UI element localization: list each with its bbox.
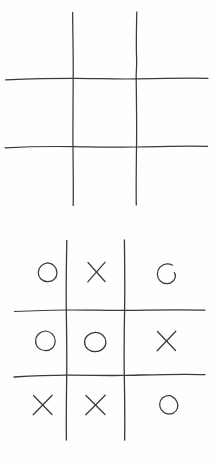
board-bottom-cell-0-0[interactable] [14, 240, 66, 310]
board-top-cell-0-1[interactable] [73, 12, 136, 78]
board-bottom-cell-0-1[interactable] [66, 240, 124, 310]
board-bottom-cell-2-0[interactable] [14, 375, 66, 440]
board-top-cell-0-0[interactable] [5, 12, 73, 78]
board-bottom-cell-2-1[interactable] [66, 375, 124, 440]
board-top-cell-1-2[interactable] [136, 78, 208, 147]
board-bottom-cell-1-1[interactable] [66, 310, 124, 375]
board-top-cell-1-1[interactable] [73, 78, 136, 147]
board-top-cell-2-2[interactable] [136, 147, 208, 205]
board-bottom-cell-1-0[interactable] [14, 310, 66, 375]
empty-tic-tac-toe-grid [5, 12, 208, 206]
drawing-surface [0, 0, 214, 463]
sketch-canvas [0, 0, 214, 463]
board-bottom-cell-2-2[interactable] [124, 375, 205, 440]
board-top-cell-1-0[interactable] [5, 78, 73, 147]
filled-tic-tac-toe-grid [14, 240, 205, 440]
board-bottom-cell-1-2[interactable] [124, 310, 205, 375]
board-top-cell-2-1[interactable] [73, 147, 136, 205]
board-top-cell-2-0[interactable] [5, 147, 73, 205]
board-top-cell-0-2[interactable] [136, 12, 208, 78]
board-bottom-cell-0-2[interactable] [124, 240, 205, 310]
